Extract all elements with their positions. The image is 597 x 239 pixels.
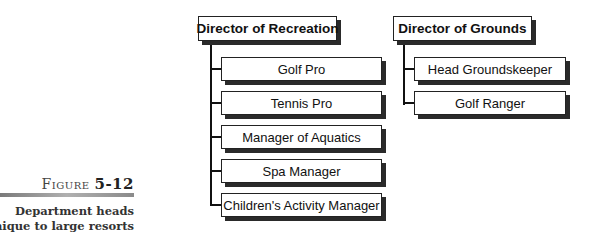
golf-pro-box: Golf Pro <box>221 57 382 81</box>
figure-label: Figure <box>42 176 90 192</box>
director-of-grounds-box: Director of Grounds <box>393 16 532 41</box>
caption-line-2: unique to large resorts <box>0 219 134 234</box>
caption-line-1: Department heads <box>0 204 134 219</box>
tennis-pro-box: Tennis Pro <box>221 91 382 115</box>
figure-caption: Department heads unique to large resorts <box>0 204 134 234</box>
golf-ranger-box: Golf Ranger <box>414 91 566 115</box>
figure-divider <box>0 193 134 197</box>
figure-number: 5-12 <box>94 175 134 193</box>
manager-of-aquatics-box: Manager of Aquatics <box>221 125 382 149</box>
spa-manager-box: Spa Manager <box>221 159 382 183</box>
figure-title: Figure 5-12 <box>42 175 134 193</box>
childrens-activity-manager-box: Children's Activity Manager <box>221 193 382 217</box>
head-groundskeeper-box: Head Groundskeeper <box>414 57 566 81</box>
recreation-trunk-line <box>210 41 212 205</box>
director-of-recreation-box: Director of Recreation <box>198 16 337 41</box>
grounds-trunk-line <box>403 41 405 105</box>
